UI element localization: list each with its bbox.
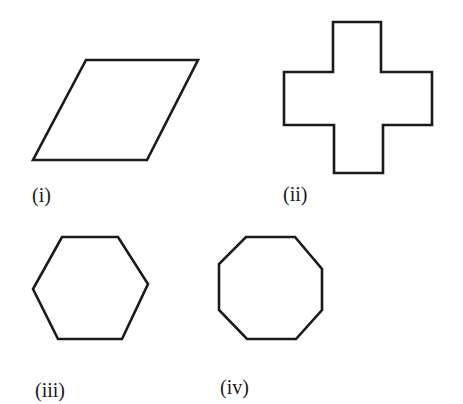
figures-canvas xyxy=(0,0,463,404)
figure-label-iii: (iii) xyxy=(35,380,65,400)
parallelogram-shape xyxy=(33,60,198,160)
octagon-shape xyxy=(219,237,322,339)
figure-label-iv: (iv) xyxy=(220,377,249,397)
cross-shape xyxy=(284,22,432,173)
figure-label-i: (i) xyxy=(32,185,51,205)
figure-label-ii: (ii) xyxy=(283,184,307,204)
hexagon-shape xyxy=(33,237,148,339)
